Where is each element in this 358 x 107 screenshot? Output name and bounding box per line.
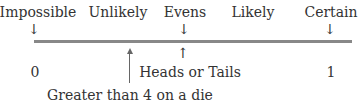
pointer-line <box>129 53 130 83</box>
event-greater-than-4: Greater than 4 on a die <box>47 87 213 103</box>
label-unlikely: Unlikely <box>89 4 148 20</box>
value-zero: 0 <box>31 64 40 80</box>
event-heads-or-tails: Heads or Tails <box>139 64 241 80</box>
down-arrow-icon: ↓ <box>178 22 190 36</box>
label-likely: Likely <box>232 4 275 20</box>
up-arrow-icon <box>127 48 133 54</box>
up-arrow-icon: ↑ <box>177 46 189 60</box>
label-impossible: Impossible <box>0 4 76 20</box>
down-arrow-icon: ↓ <box>28 22 40 36</box>
scale-line <box>34 40 352 43</box>
down-arrow-icon: ↓ <box>324 22 336 36</box>
label-evens: Evens <box>164 4 207 20</box>
label-certain: Certain <box>304 4 357 20</box>
value-one: 1 <box>327 64 336 80</box>
